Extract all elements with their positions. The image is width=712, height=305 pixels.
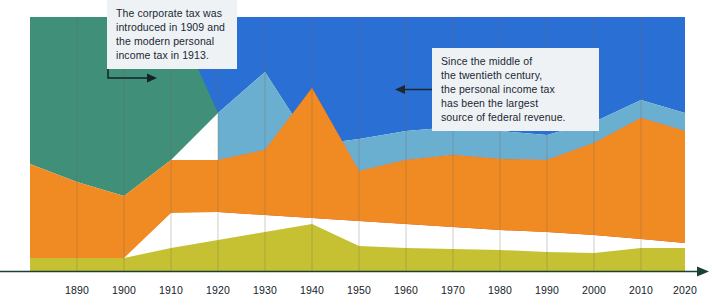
x-tick-label: 1950 [347,284,371,296]
x-tick-label: 2010 [629,284,653,296]
x-axis-tick-labels: 1890 1900 1910 1920 1930 1940 1950 1960 … [0,0,712,305]
x-tick-label: 2000 [582,284,606,296]
x-tick-label: 1990 [535,284,559,296]
x-tick-label: 1900 [112,284,136,296]
x-tick-label: 1910 [159,284,183,296]
x-tick-label: 1930 [253,284,277,296]
x-tick-label: 2020 [673,284,697,296]
x-tick-label: 1960 [394,284,418,296]
x-tick-label: 1940 [300,284,324,296]
chart-figure: The corporate tax was introduced in 1909… [0,0,712,305]
x-tick-label: 1890 [65,284,89,296]
x-tick-label: 1980 [488,284,512,296]
x-tick-label: 1970 [441,284,465,296]
x-tick-label: 1920 [206,284,230,296]
